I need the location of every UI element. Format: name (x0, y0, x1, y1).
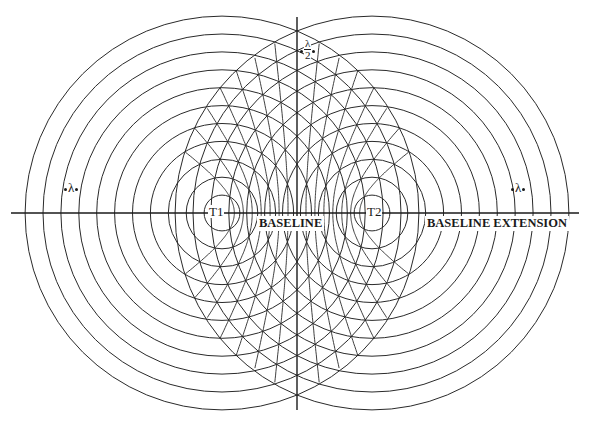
lambda-symbol: λ (515, 180, 521, 195)
wavelength-marker-right: λ (510, 181, 526, 194)
interference-diagram (0, 0, 606, 424)
wavelength-marker-left: λ (63, 181, 79, 194)
arrow-left-icon (300, 50, 303, 53)
baseline-label: BASELINE (257, 216, 324, 231)
source-2-label: T2 (366, 205, 382, 218)
fraction-denominator: 2 (305, 50, 311, 61)
baseline-extension-label: BASELINE EXTENSION (425, 216, 569, 231)
half-wavelength-marker: λ 2 (299, 38, 316, 61)
arrow-left-icon (64, 188, 67, 191)
source-1-label: T1 (208, 205, 224, 218)
lambda-symbol: λ (68, 180, 74, 195)
arrow-right-icon (312, 50, 315, 53)
half-wavelength-fraction: λ 2 (304, 38, 311, 61)
arrow-right-icon (75, 188, 78, 191)
arrow-left-icon (511, 188, 514, 191)
arrow-right-icon (522, 188, 525, 191)
